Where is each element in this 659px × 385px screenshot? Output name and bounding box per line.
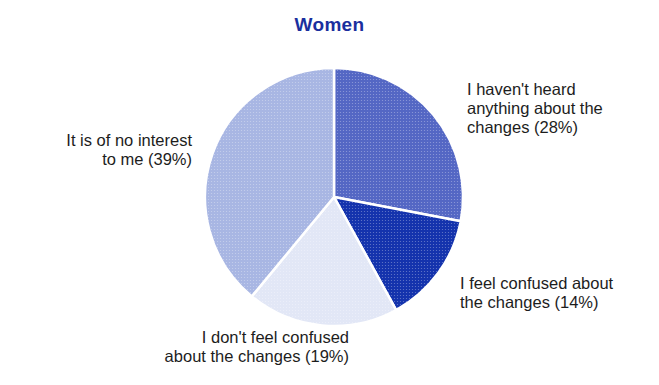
slice-label-confused: I feel confused about the changes (14%): [460, 274, 613, 312]
slice-label-no-interest: It is of no interest to me (39%): [42, 131, 192, 169]
slice-label-not-heard: I haven't heard anything about the chang…: [467, 80, 603, 137]
halftone-overlay: [334, 68, 463, 221]
slice-label-not-confused: I don't feel confused about the changes …: [115, 328, 349, 366]
